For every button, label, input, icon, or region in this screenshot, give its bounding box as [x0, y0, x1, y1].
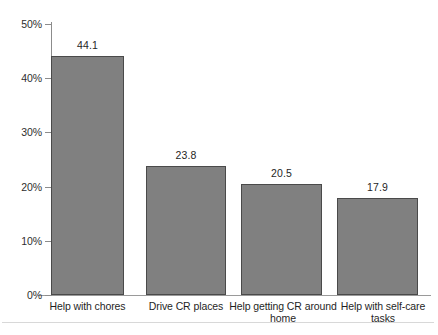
bar-chart: 50% 40% 30% 20% 10% 0% 44.1 23.8 20 [0, 0, 438, 335]
bar-value-label-3: 20.5 [241, 168, 322, 179]
plot-area: 50% 40% 30% 20% 10% 0% 44.1 23.8 20 [0, 0, 438, 335]
bar-help-getting-cr-around-home [241, 184, 322, 295]
x-axis-category-label-2: Drive CR places [137, 301, 235, 313]
x-axis-category-label-3: Help getting CR around home [228, 301, 338, 324]
x-axis-line [38, 295, 431, 296]
x-axis-category-label-4: Help with self-care tasks [330, 301, 436, 324]
bar-help-with-chores [51, 56, 124, 295]
y-tick-label-20: 20% [0, 182, 42, 192]
bar-help-with-self-care-tasks [337, 198, 418, 295]
y-tick-mark-0 [45, 295, 52, 296]
x-axis-category-label-1: Help with chores [36, 301, 139, 313]
y-tick-label-50: 50% [0, 19, 42, 29]
y-tick-label-10: 10% [0, 236, 42, 246]
y-tick-mark-50 [45, 24, 52, 25]
bar-value-label-1: 44.1 [51, 40, 124, 51]
y-tick-label-40: 40% [0, 73, 42, 83]
x-axis-category-label-3-line1: Help getting CR around [228, 301, 338, 313]
bar-drive-cr-places [146, 166, 226, 295]
y-tick-label-0: 0% [0, 290, 42, 300]
bar-value-label-2: 23.8 [146, 150, 226, 161]
bar-value-label-4: 17.9 [337, 182, 418, 193]
y-tick-label-30: 30% [0, 127, 42, 137]
bottom-divider [2, 322, 434, 323]
